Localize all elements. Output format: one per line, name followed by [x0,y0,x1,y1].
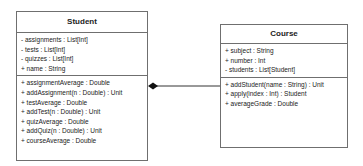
composition-diamond-icon [148,83,158,90]
method: + courseAverage : Double [21,136,147,146]
attribute: + name : String [21,64,147,74]
method: + assignmentAverage : Double [21,78,147,88]
method: + averageGrade : Double [225,99,347,109]
methods-section: + addStudent(name : String) : Unit + app… [221,78,347,111]
attribute: - assignments : List[Int] [21,35,147,45]
class-title: Course [221,25,347,44]
method: + testAverage : Double [21,98,147,108]
attribute: + number : Int [225,56,347,66]
method: + quizAverage : Double [21,117,147,127]
attribute: - students : List[Student] [225,65,347,75]
method: + addTest(n : Double) : Unit [21,107,147,117]
method: + addStudent(name : String) : Unit [225,80,347,90]
attributes-section: - assignments : List[Int] - tests : List… [17,33,147,76]
method: + addQuiz(n : Double) : Unit [21,126,147,136]
attributes-section: + subject : String + number : Int - stud… [221,44,347,78]
attribute: - tests : List[Int] [21,45,147,55]
method: + apply(index : Int) : Student [225,89,347,99]
course-class-box: Course + subject : String + number : Int… [220,24,348,148]
attribute: + subject : String [225,46,347,56]
class-title: Student [17,12,147,33]
student-class-box: Student - assignments : List[Int] - test… [16,11,148,161]
methods-section: + assignmentAverage : Double + addAssign… [17,76,147,147]
method: + addAssignment(n : Double) : Unit [21,88,147,98]
attribute: - quizzes : List[Int] [21,54,147,64]
